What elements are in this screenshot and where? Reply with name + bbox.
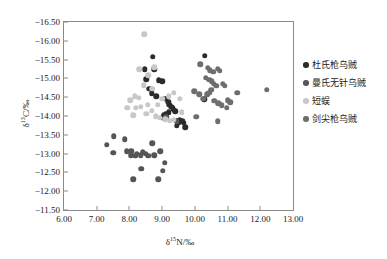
data-point — [182, 125, 188, 131]
y-axis-tick-mark — [64, 22, 68, 23]
data-point — [197, 91, 203, 97]
data-point — [146, 153, 152, 159]
data-point — [141, 82, 147, 88]
data-point — [162, 160, 168, 166]
data-point — [157, 115, 163, 121]
x-axis-tick-mark — [260, 206, 261, 210]
plot-area: −16.50−16.00−15.50−15.00−14.50−14.00−13.… — [63, 21, 294, 211]
data-point — [127, 97, 133, 103]
y-axis-tick-label: −13.50 — [35, 130, 60, 139]
y-axis-tick-mark — [64, 97, 68, 98]
legend-marker-icon — [303, 62, 309, 68]
y-axis-tick-mark — [64, 153, 68, 154]
data-point — [171, 90, 177, 96]
x-axis-tick-mark — [96, 206, 97, 210]
y-axis-tick-mark — [64, 40, 68, 41]
data-point — [145, 102, 151, 108]
data-point — [138, 104, 144, 110]
data-point — [125, 105, 131, 111]
legend-item[interactable]: 杜氏枪乌贼 — [303, 56, 387, 74]
y-axis-tick-mark — [64, 210, 68, 211]
legend-marker-icon — [303, 98, 309, 104]
data-point — [142, 31, 148, 37]
data-point — [140, 149, 146, 155]
data-point — [111, 134, 117, 140]
data-point — [264, 87, 270, 93]
data-point — [155, 176, 161, 182]
data-point — [222, 83, 228, 89]
x-axis-title: δ15N/‰ — [60, 236, 300, 247]
x-axis-tick-mark — [227, 206, 228, 210]
chart-legend: 杜氏枪乌贼曼氏无针乌贼短蜈剑尖枪乌贼 — [303, 56, 387, 128]
data-point — [235, 90, 241, 96]
data-point — [224, 105, 230, 111]
y-axis-title: δ13C/‰ — [20, 69, 31, 159]
data-point — [150, 54, 156, 60]
data-point — [217, 68, 223, 74]
legend-label: 短蜈 — [312, 97, 330, 106]
y-axis-tick-mark — [64, 172, 68, 173]
data-point — [179, 109, 185, 115]
data-point — [157, 149, 163, 155]
data-point — [136, 95, 142, 101]
y-axis-tick-label: −15.00 — [35, 74, 60, 83]
x-axis-tick-label: 7.00 — [89, 215, 105, 224]
x-axis-title-text: δ15N/‰ — [166, 237, 194, 247]
y-axis-tick-mark — [64, 134, 68, 135]
y-axis-tick-label: −13.00 — [35, 149, 60, 158]
legend-marker-icon — [303, 116, 309, 122]
legend-marker-icon — [303, 80, 309, 86]
x-axis-tick-label: 9.00 — [154, 215, 170, 224]
data-point — [152, 152, 158, 158]
chart-figure: δ13C/‰ −16.50−16.00−15.50−15.00−14.50−14… — [0, 0, 387, 259]
x-axis-tick-mark — [162, 206, 163, 210]
x-axis-tick-label: 12.00 — [250, 215, 270, 224]
y-axis-tick-label: −15.50 — [35, 55, 60, 64]
data-point — [142, 66, 148, 72]
data-point — [131, 112, 137, 118]
data-point — [138, 166, 144, 172]
data-point — [172, 109, 178, 115]
data-point — [197, 61, 203, 67]
data-point — [154, 94, 160, 100]
x-axis-tick-label: 10.00 — [185, 215, 205, 224]
data-point — [110, 150, 116, 156]
data-point — [159, 79, 165, 85]
y-axis-tick-label: −12.50 — [35, 168, 60, 177]
legend-item[interactable]: 短蜈 — [303, 92, 387, 110]
data-point — [104, 142, 110, 148]
data-point — [215, 119, 221, 125]
data-point — [122, 137, 128, 143]
legend-item[interactable]: 剑尖枪乌贼 — [303, 110, 387, 128]
data-point — [193, 114, 199, 120]
x-axis-tick-label: 8.00 — [122, 215, 138, 224]
y-axis-tick-label: −14.50 — [35, 93, 60, 102]
y-axis-tick-mark — [64, 78, 68, 79]
legend-item[interactable]: 曼氏无针乌贼 — [303, 74, 387, 92]
legend-label: 剑尖枪乌贼 — [312, 115, 357, 124]
data-point — [136, 67, 142, 73]
legend-label: 杜氏枪乌贼 — [312, 61, 357, 70]
data-point — [150, 86, 156, 92]
y-axis-tick-label: −12.00 — [35, 187, 60, 196]
data-point — [150, 140, 156, 146]
y-axis-tick-label: −16.50 — [35, 18, 60, 27]
data-point — [202, 53, 208, 59]
data-point — [171, 117, 177, 123]
data-point — [131, 176, 137, 182]
x-axis-tick-label: 6.00 — [56, 215, 72, 224]
data-point — [155, 102, 161, 108]
x-axis-tick-mark — [194, 206, 195, 210]
data-point — [159, 96, 165, 102]
y-axis-tick-label: −14.00 — [35, 112, 60, 121]
x-axis-tick-mark — [129, 206, 130, 210]
legend-label: 曼氏无针乌贼 — [312, 79, 366, 88]
x-axis-tick-label: 13.00 — [283, 215, 303, 224]
y-axis-tick-mark — [64, 191, 68, 192]
y-axis-tick-label: −16.00 — [35, 36, 60, 45]
y-axis-tick-mark — [64, 116, 68, 117]
data-point — [144, 111, 150, 117]
y-axis-title-text: δ13C/‰ — [21, 100, 31, 128]
data-point — [177, 96, 183, 102]
x-axis-tick-label: 11.00 — [218, 215, 238, 224]
